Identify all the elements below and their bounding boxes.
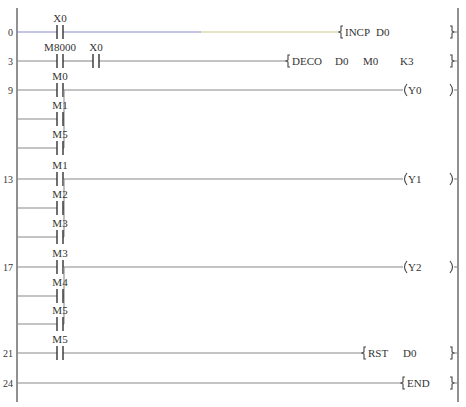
contact-label: M2 xyxy=(52,188,67,200)
contact-label: M5 xyxy=(52,304,68,316)
parallel-branch: M4 xyxy=(17,276,68,303)
contact-no: M8000 xyxy=(44,41,76,68)
step-number: 17 xyxy=(3,262,13,273)
rung-13: 13M1M2M3Y1 xyxy=(3,159,458,244)
rung-24: 24END xyxy=(3,377,458,389)
instruction-operand: D0 xyxy=(335,55,349,67)
step-number: 9 xyxy=(8,85,13,96)
parallel-branch: M1 xyxy=(17,99,68,126)
step-number: 24 xyxy=(3,378,13,389)
instruction-mnemonic: Y0 xyxy=(408,84,422,96)
instruction-operand: K3 xyxy=(400,55,414,67)
contact-no: X0 xyxy=(89,41,103,68)
contact-label: M0 xyxy=(52,70,68,82)
contact-label: M1 xyxy=(52,159,67,171)
contact-no: M5 xyxy=(52,128,68,155)
contact-no: M4 xyxy=(52,276,68,303)
parallel-branch: M3 xyxy=(17,217,68,244)
rungs: 0X0INCPD03M8000X0DECOD0M0K39M0M1M5Y013M1… xyxy=(3,12,458,389)
instruction-block: END xyxy=(401,377,458,389)
contact-label: M3 xyxy=(52,217,68,229)
contact-no: M5 xyxy=(52,333,68,360)
output-coil: Y2 xyxy=(405,261,459,273)
step-number: 0 xyxy=(8,27,13,38)
instruction-mnemonic: Y1 xyxy=(408,173,421,185)
rung-21: 21M5RSTD0 xyxy=(3,333,458,360)
instruction-operand: D0 xyxy=(376,26,390,38)
contact-label: M5 xyxy=(52,128,68,140)
parallel-branch: M5 xyxy=(17,304,68,331)
contact-label: M3 xyxy=(52,247,68,259)
contact-no: M1 xyxy=(52,99,67,126)
contact-no: M3 xyxy=(52,247,68,274)
instruction-block: INCPD0 xyxy=(339,26,458,38)
ladder-diagram: 0X0INCPD03M8000X0DECOD0M0K39M0M1M5Y013M1… xyxy=(0,0,466,407)
instruction-mnemonic: INCP xyxy=(345,26,370,38)
rung-9: 9M0M1M5Y0 xyxy=(8,70,458,155)
output-coil: Y1 xyxy=(405,173,459,185)
step-number: 21 xyxy=(3,348,13,359)
instruction-mnemonic: END xyxy=(407,377,430,389)
contact-label: X0 xyxy=(53,12,67,24)
instruction-block: DECOD0M0K3 xyxy=(286,55,458,67)
contact-no: M1 xyxy=(52,159,67,186)
instruction-mnemonic: DECO xyxy=(292,55,322,67)
parallel-branch: M2 xyxy=(17,188,68,215)
instruction-operand: M0 xyxy=(363,55,379,67)
parallel-branch: M5 xyxy=(17,128,68,155)
instruction-mnemonic: RST xyxy=(368,347,388,359)
contact-no: M5 xyxy=(52,304,68,331)
step-number: 3 xyxy=(8,56,13,67)
contact-no: X0 xyxy=(53,12,67,39)
output-coil: Y0 xyxy=(405,84,459,96)
instruction-mnemonic: Y2 xyxy=(408,261,421,273)
contact-no: M2 xyxy=(52,188,67,215)
contact-label: M8000 xyxy=(44,41,76,53)
rung-17: 17M3M4M5Y2 xyxy=(3,247,458,331)
rung-3: 3M8000X0DECOD0M0K3 xyxy=(8,41,458,68)
contact-label: M1 xyxy=(52,99,67,111)
rung-0: 0X0INCPD0 xyxy=(8,12,458,39)
instruction-operand: D0 xyxy=(403,347,417,359)
contact-no: M0 xyxy=(52,70,68,97)
contact-label: X0 xyxy=(89,41,103,53)
instruction-block: RSTD0 xyxy=(362,347,458,359)
contact-no: M3 xyxy=(52,217,68,244)
step-number: 13 xyxy=(3,174,13,185)
contact-label: M5 xyxy=(52,333,68,345)
contact-label: M4 xyxy=(52,276,68,288)
